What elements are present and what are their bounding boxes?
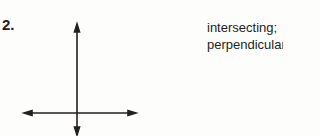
down-arrow-icon [75, 127, 80, 135]
right-arrow-icon [128, 111, 136, 116]
answer-line-2: perpendicular [207, 36, 283, 53]
up-arrow-icon [75, 24, 80, 32]
answer-text: intersecting; perpendicular [207, 19, 283, 53]
left-arrow-icon [24, 111, 32, 116]
answer-line-1: intersecting; [207, 19, 283, 36]
